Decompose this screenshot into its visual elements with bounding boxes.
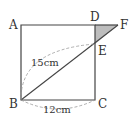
- label-f: F: [120, 18, 128, 32]
- label-b: B: [9, 97, 18, 111]
- measure-bc: 12cm: [43, 104, 71, 115]
- label-c: C: [98, 97, 107, 111]
- label-d: D: [90, 10, 100, 24]
- label-e: E: [98, 44, 107, 58]
- geometry-diagram: A D F E B C 15cm 12cm: [0, 0, 136, 125]
- measure-be: 15cm: [31, 57, 59, 68]
- label-a: A: [8, 18, 18, 32]
